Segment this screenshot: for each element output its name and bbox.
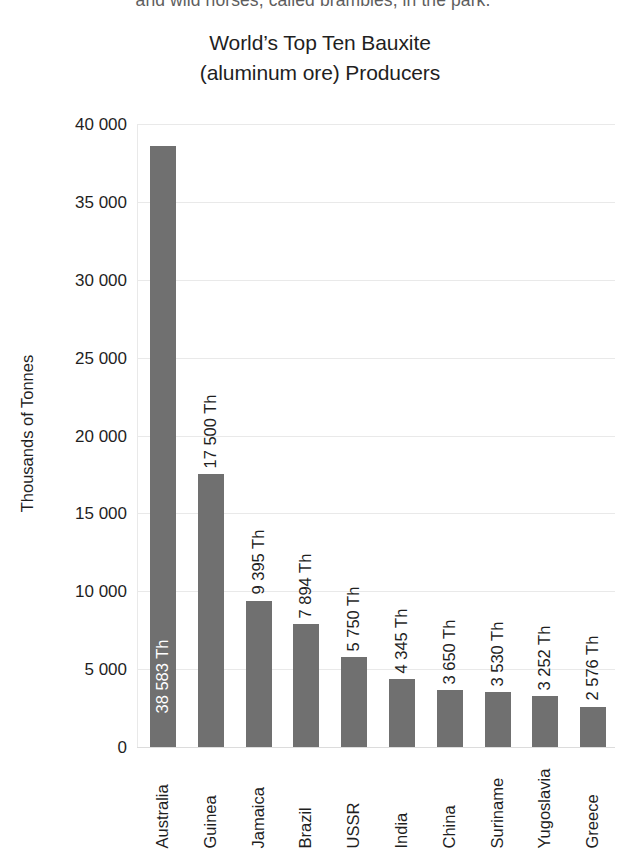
- y-axis-tick-label: 25 000: [0, 350, 127, 367]
- y-axis-tick-label: 20 000: [0, 428, 127, 445]
- x-axis-tick-label: Brazil: [297, 807, 314, 848]
- gridline: [137, 280, 615, 281]
- x-axis-tick-label: USSR: [345, 803, 362, 849]
- bar: [198, 474, 224, 747]
- bar: [580, 707, 606, 747]
- bar-value-label: 4 345 Th: [393, 608, 410, 673]
- gridline: [137, 202, 615, 203]
- y-axis-tick-label: 5 000: [0, 661, 127, 678]
- plot-area: 38 583 Th17 500 Th9 395 Th7 894 Th5 750 …: [137, 124, 615, 747]
- bar-value-label: 38 583 Th: [154, 640, 171, 714]
- bar: [341, 657, 367, 747]
- y-axis-tick-label: 15 000: [0, 505, 127, 522]
- gridline: [137, 358, 615, 359]
- y-axis-tick-label: 40 000: [0, 116, 127, 133]
- chart-title-line-2: (aluminum ore) Producers: [63, 58, 577, 88]
- y-axis-tick-label: 35 000: [0, 194, 127, 211]
- bar-value-label: 7 894 Th: [297, 553, 314, 618]
- x-axis-tick-label: Suriname: [488, 778, 505, 849]
- bar-value-label: 2 576 Th: [584, 636, 601, 701]
- x-axis-tick-label: China: [440, 805, 457, 848]
- x-axis-tick-label: Australia: [154, 784, 171, 848]
- x-axis-tick-label: Greece: [584, 794, 601, 848]
- bar: [485, 692, 511, 747]
- x-axis-tick-label: India: [393, 813, 410, 849]
- bar: [389, 679, 415, 747]
- bar: [293, 624, 319, 747]
- bar-value-label: 5 750 Th: [345, 587, 362, 652]
- chart-title: World’s Top Ten Bauxite (aluminum ore) P…: [63, 28, 577, 88]
- bar-value-label: 3 530 Th: [488, 621, 505, 686]
- bar-value-label: 17 500 Th: [201, 394, 218, 468]
- y-axis-tick-label: 10 000: [0, 583, 127, 600]
- gridline: [137, 747, 615, 748]
- y-axis-tick-label: 30 000: [0, 272, 127, 289]
- x-axis-tick-label: Yugoslavia: [536, 769, 553, 849]
- chart-title-line-1: World’s Top Ten Bauxite: [63, 28, 577, 58]
- bar: [246, 601, 272, 747]
- bar-value-label: 3 650 Th: [440, 619, 457, 684]
- bar-value-label: 3 252 Th: [536, 626, 553, 691]
- bar: [437, 690, 463, 747]
- y-axis-tick-label: 0: [0, 739, 127, 756]
- bar-value-label: 9 395 Th: [249, 530, 266, 595]
- bar: [532, 696, 558, 747]
- gridline: [137, 124, 615, 125]
- x-axis-tick-label: Guinea: [201, 795, 218, 848]
- x-axis-tick-label: Jamaica: [249, 787, 266, 848]
